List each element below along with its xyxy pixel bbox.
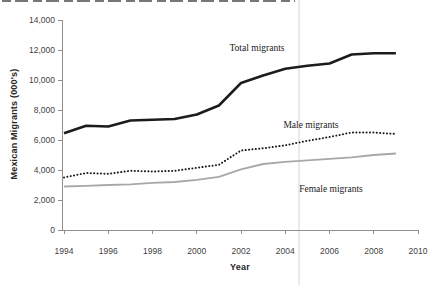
y-tick-label: 8,000 xyxy=(34,105,56,115)
series-annotation: Total migrants xyxy=(229,43,284,53)
y-tick-label: 14,000 xyxy=(29,15,55,25)
x-tick-label: 1998 xyxy=(143,246,162,256)
series-annotation: Female migrants xyxy=(299,184,363,194)
series-line-total-migrants xyxy=(64,53,396,133)
y-tick-label: 0 xyxy=(50,225,55,235)
y-axis-title: Mexican Migrants (000's) xyxy=(9,69,19,180)
y-tick-label: 6,000 xyxy=(34,135,56,145)
x-tick-label: 2002 xyxy=(232,246,251,256)
migration-line-chart-figure: 02,0004,0006,0008,00010,00012,00014,0001… xyxy=(0,0,439,285)
y-tick-label: 2,000 xyxy=(34,195,56,205)
x-tick-label: 2004 xyxy=(276,246,295,256)
x-axis-title: Year xyxy=(230,262,250,272)
series-line-female-migrants xyxy=(64,154,396,187)
x-tick-label: 2008 xyxy=(364,246,383,256)
series-annotation: Male migrants xyxy=(283,120,338,130)
y-tick-label: 10,000 xyxy=(29,75,55,85)
chart-canvas: 02,0004,0006,0008,00010,00012,00014,0001… xyxy=(0,0,439,285)
y-tick-label: 4,000 xyxy=(34,165,56,175)
x-tick-label: 2006 xyxy=(320,246,339,256)
x-tick-label: 1996 xyxy=(99,246,118,256)
series-line-male-migrants xyxy=(64,133,396,178)
x-tick-label: 2000 xyxy=(187,246,206,256)
x-tick-label: 2010 xyxy=(409,246,428,256)
y-tick-label: 12,000 xyxy=(29,45,55,55)
x-tick-label: 1994 xyxy=(55,246,74,256)
